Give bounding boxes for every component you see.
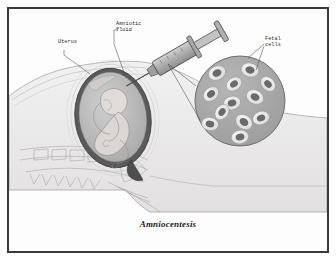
label-uterus: Uterus (58, 40, 77, 46)
amniocentesis-figure: Uterus Amniotic fluid Fetal cells Amnioc… (0, 0, 336, 260)
figure-caption: Amniocentesis (0, 219, 336, 229)
label-fetal-cells: Fetal cells (265, 37, 281, 49)
label-amniotic-fluid: Amniotic fluid (116, 22, 141, 34)
fetal-cells-inset (195, 56, 285, 146)
